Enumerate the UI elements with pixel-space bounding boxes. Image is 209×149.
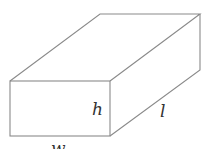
box-diagram: h l w: [0, 0, 209, 149]
length-label: l: [160, 101, 165, 121]
top-face-edges: [10, 14, 200, 81]
side-face-edges: [110, 14, 200, 136]
height-label: h: [92, 99, 103, 119]
prism-edges: [10, 14, 200, 136]
width-label: w: [51, 138, 66, 149]
